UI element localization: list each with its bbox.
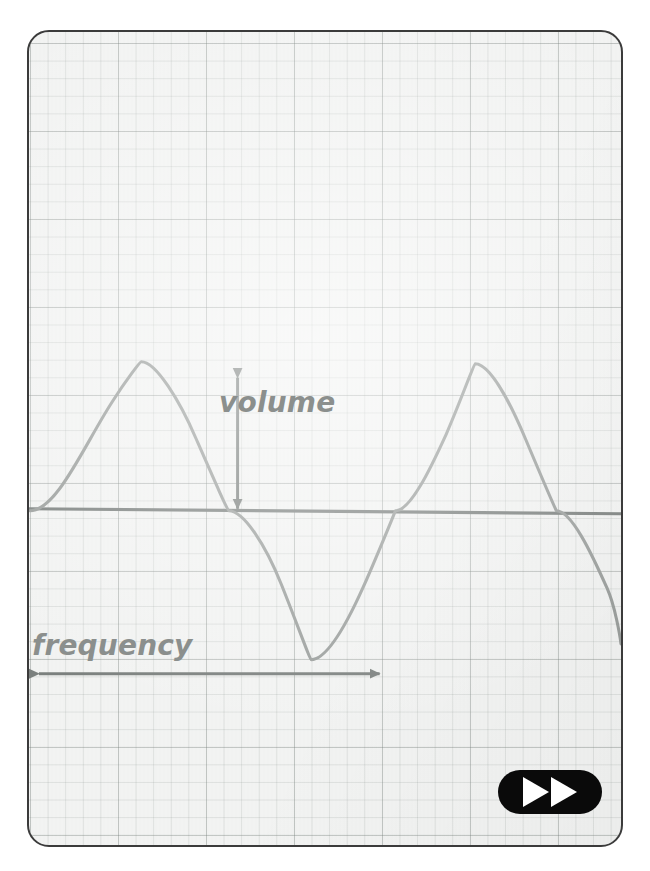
fast-forward-icon bbox=[523, 777, 549, 807]
frequency-label: frequency bbox=[32, 629, 193, 662]
graph-paper-card bbox=[27, 30, 623, 847]
volume-label: volume bbox=[219, 386, 335, 419]
fast-forward-button[interactable] bbox=[498, 770, 602, 814]
wave-drawing bbox=[29, 32, 621, 844]
figure-canvas: volume frequency bbox=[0, 0, 650, 871]
baseline-axis bbox=[29, 509, 621, 514]
fast-forward-icon-second bbox=[551, 777, 577, 807]
